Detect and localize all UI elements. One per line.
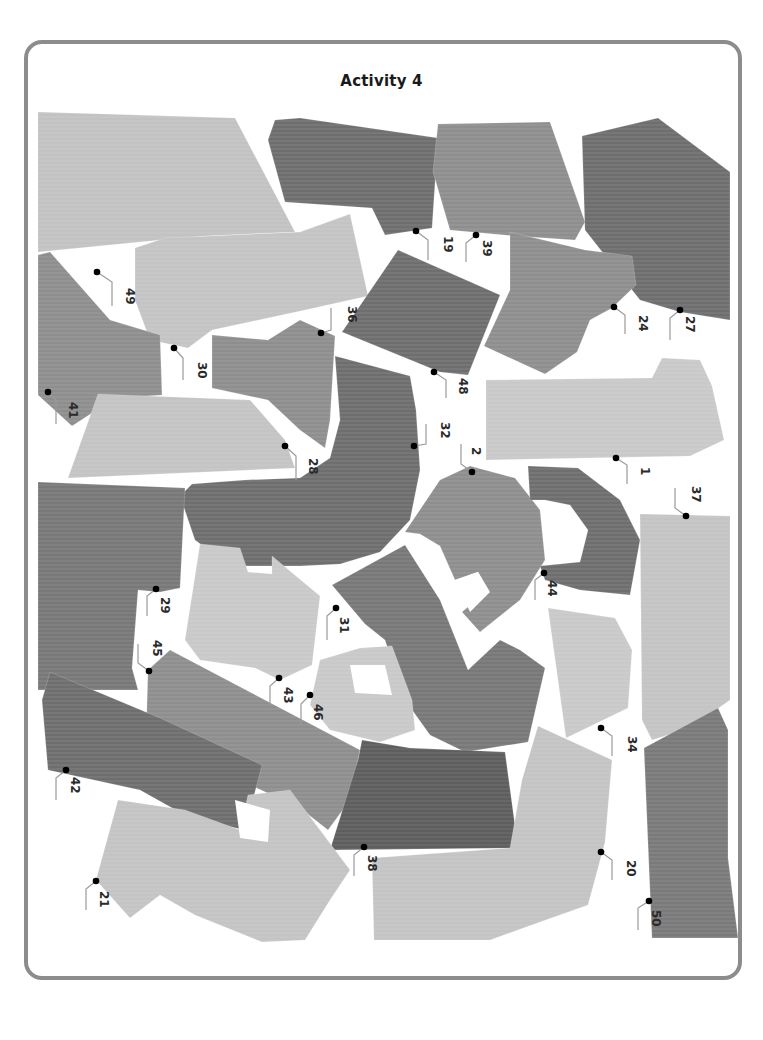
piece-texture	[268, 118, 438, 235]
anchor-dot	[598, 849, 605, 856]
piece-number-label: 1	[639, 467, 651, 475]
anchor-dot	[411, 443, 418, 450]
piece-number-label: 36	[346, 306, 358, 323]
piece-number-label: 32	[439, 422, 451, 439]
piece-number-label: 39	[481, 240, 493, 257]
puzzle-canvas	[0, 0, 763, 1040]
anchor-dot	[677, 307, 684, 314]
piece-number-label: 41	[67, 402, 79, 419]
leader-line	[321, 308, 331, 333]
anchor-dot	[413, 228, 420, 235]
piece-texture	[342, 250, 500, 375]
anchor-dot	[541, 570, 548, 577]
piece-number-label: 31	[338, 617, 350, 634]
piece-number-label: 20	[625, 860, 637, 877]
piece-number-label: 44	[546, 580, 558, 597]
leader-line	[601, 852, 612, 880]
anchor-dot	[598, 725, 605, 732]
anchor-dot	[469, 469, 476, 476]
anchor-dot	[276, 675, 283, 682]
piece-number-label: 43	[282, 687, 294, 704]
leader-line	[270, 678, 279, 706]
anchor-dot	[683, 513, 690, 520]
piece-number-label: 50	[650, 910, 662, 927]
anchor-dot	[307, 692, 314, 699]
piece-number-label: 27	[684, 316, 696, 333]
piece-number-label: 19	[442, 236, 454, 253]
piece-number-label: 49	[124, 288, 136, 305]
piece-texture	[433, 122, 585, 240]
leader-line	[86, 881, 96, 910]
anchor-dot	[473, 232, 480, 239]
leader-line	[535, 573, 544, 600]
anchor-dot	[361, 844, 368, 851]
anchor-dot	[613, 455, 620, 462]
leader-line	[416, 231, 428, 260]
leader-line	[601, 728, 612, 756]
leader-line	[147, 589, 156, 616]
piece-number-label: 28	[307, 458, 319, 475]
anchor-dot	[282, 443, 289, 450]
piece-number-label: 37	[690, 486, 702, 503]
anchor-dot	[63, 767, 70, 774]
leader-line	[614, 307, 625, 334]
anchor-dot	[146, 668, 153, 675]
leader-line	[174, 348, 183, 380]
anchor-dot	[153, 586, 160, 593]
leader-line	[616, 458, 627, 484]
piece-number-label: 48	[457, 378, 469, 395]
anchor-dot	[93, 878, 100, 885]
piece-texture	[644, 708, 738, 938]
leader-line	[327, 608, 336, 640]
leader-line	[675, 488, 686, 516]
leader-line	[466, 235, 476, 262]
leader-line	[138, 644, 149, 671]
anchor-dot	[45, 389, 52, 396]
leader-line	[670, 310, 680, 340]
leader-line	[434, 372, 446, 398]
piece-cutout	[350, 665, 392, 695]
piece-texture	[640, 514, 730, 740]
piece-number-label: 29	[159, 597, 171, 614]
piece-number-label: 2	[470, 447, 482, 455]
anchor-dot	[611, 304, 618, 311]
piece-texture	[548, 608, 632, 738]
pieces-layer	[38, 112, 738, 942]
page-title: Activity 4	[0, 72, 763, 90]
leader-line	[638, 901, 649, 930]
piece-texture	[38, 112, 295, 252]
anchor-dot	[431, 369, 438, 376]
piece-number-label: 42	[69, 777, 81, 794]
piece-number-label: 45	[151, 640, 163, 657]
anchor-dot	[94, 269, 101, 276]
leader-line	[56, 770, 66, 800]
piece-number-label: 38	[366, 855, 378, 872]
anchor-dot	[646, 898, 653, 905]
piece-number-label: 24	[637, 315, 649, 332]
piece-number-label: 30	[196, 362, 208, 379]
piece-number-label: 46	[312, 704, 324, 721]
anchor-dot	[333, 605, 340, 612]
leader-line	[97, 272, 112, 306]
piece-texture	[68, 394, 295, 478]
piece-texture	[486, 358, 724, 460]
piece-number-label: 21	[98, 891, 110, 908]
anchor-dot	[171, 345, 178, 352]
anchor-dot	[318, 330, 325, 337]
leader-line	[354, 847, 364, 876]
piece-number-label: 34	[626, 736, 638, 753]
